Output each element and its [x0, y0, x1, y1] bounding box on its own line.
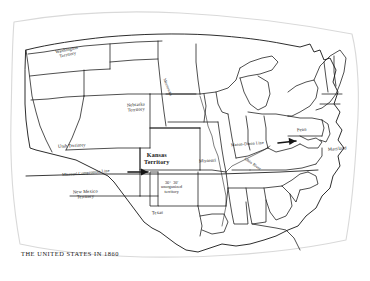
- unorganized-territory-box: [158, 172, 198, 206]
- unorganized-west-edge: [150, 172, 158, 206]
- wisconsin-michigan-border: [200, 68, 240, 94]
- michigan-upper-outline: [240, 56, 278, 78]
- us-1860-map: WashingtonTerritory NebraskaTerritory Ut…: [0, 0, 370, 281]
- missouri-south-border: [200, 170, 226, 172]
- ohio-west-border: [264, 116, 268, 148]
- minnesota-east-border: [196, 44, 200, 94]
- utah-north-border: [84, 94, 150, 96]
- oregon-south-border: [31, 96, 84, 100]
- mason-dixon-arrow: [278, 138, 296, 145]
- kentucky-north-border: [236, 148, 268, 158]
- nj-outline: [320, 120, 330, 142]
- illinois-indiana-border: [228, 114, 236, 158]
- nc-coast: [300, 172, 318, 190]
- pennsylvania-east-border: [322, 120, 324, 136]
- pacific-coast: [26, 50, 52, 152]
- nebraska-north-border: [110, 59, 158, 62]
- maryland-outline: [300, 136, 322, 148]
- texas-east-border: [198, 206, 202, 236]
- michigan-lower-outline: [240, 76, 270, 110]
- indiana-ohio-west: [246, 116, 250, 150]
- map-linework: [0, 0, 370, 281]
- missouri-compromise-arrow: [128, 168, 148, 175]
- wt-south-border: [30, 69, 110, 76]
- nebraska-territory-east: [158, 41, 166, 126]
- iowa-east-border: [204, 94, 206, 122]
- alabama-outline: [246, 188, 266, 224]
- new-york-outline: [288, 80, 318, 116]
- missouri-compromise-line-36-30: [26, 170, 318, 176]
- vermont-nh-divider: [324, 62, 328, 92]
- ny-pa-border: [288, 116, 322, 120]
- utah-south-border: [66, 148, 150, 150]
- california-east-border: [66, 96, 84, 150]
- national-border: [25, 34, 344, 252]
- mississippi-outline: [228, 188, 248, 224]
- nc-sc-border: [282, 172, 308, 186]
- mississippi-river: [200, 96, 226, 226]
- georgia-outline: [264, 188, 292, 220]
- lake-michigan-shore: [216, 92, 228, 114]
- washington-territory-border: [28, 41, 162, 54]
- ohio-north-border: [248, 112, 288, 116]
- virginia-south-border: [250, 164, 316, 170]
- virginia-coast: [316, 148, 322, 164]
- tennessee-south-border: [228, 186, 282, 188]
- virginia-west-border: [268, 144, 300, 152]
- arkansas-east-border: [226, 172, 228, 206]
- missouri-east-border: [218, 122, 226, 172]
